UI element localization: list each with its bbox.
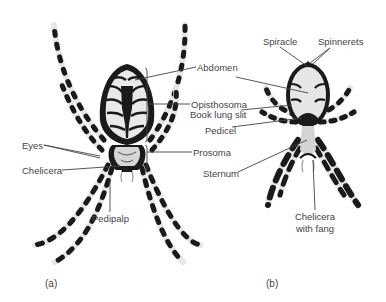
- cephalothorax-dorsal: [109, 145, 146, 182]
- abdomen-ventral: [286, 61, 330, 127]
- label-sternum: Sternum: [203, 168, 239, 179]
- spider-anatomy-figure: Abdomen Opisthosoma Prosoma Eyes Chelice…: [0, 0, 386, 302]
- panel-label-b: (b): [266, 278, 278, 289]
- label-prosoma: Prosoma: [193, 147, 231, 158]
- abdomen-dorsal: [100, 64, 155, 145]
- label-pedipalp: Pedipalp: [92, 213, 129, 224]
- label-pedicel: Pedicel: [205, 125, 236, 136]
- label-eyes: Eyes: [22, 140, 43, 151]
- label-chelicera-with-fang-line1: Chelicera: [293, 211, 337, 222]
- label-chelicera: Chelicera: [22, 165, 62, 176]
- label-chelicera-with-fang-line2: with fang: [293, 223, 337, 234]
- label-spiracle: Spiracle: [263, 36, 297, 47]
- label-book-lung-slit: Book lung slit: [190, 109, 247, 120]
- label-spinnerets: Spinnerets: [318, 36, 363, 47]
- panel-label-a: (a): [45, 278, 57, 289]
- spider-ventral-view: [232, 47, 358, 210]
- label-abdomen: Abdomen: [197, 62, 238, 73]
- spider-dorsal-view: [35, 25, 200, 262]
